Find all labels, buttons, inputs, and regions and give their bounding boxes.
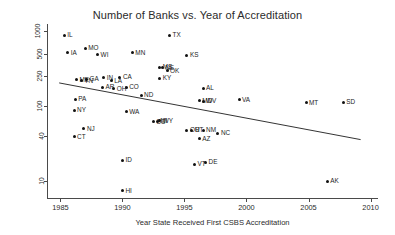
x-axis-tick-mark [246,198,247,202]
x-axis-label: Year State Received First CSBS Accredita… [47,218,378,227]
data-point-label: CT [77,134,86,140]
x-axis-tick-mark [309,198,310,202]
data-point-label: IL [67,32,72,38]
data-point-label: KS [190,52,199,58]
data-point-label: WY [163,118,173,124]
data-point-label: PA [78,96,86,102]
data-point-label: WV [206,98,216,104]
data-point [204,161,207,164]
data-point [202,100,205,103]
x-axis-tick-label: 2000 [238,203,254,212]
x-axis-tick-mark [371,198,372,202]
data-point-label: MT [309,99,318,105]
y-axis-tick-label: 10 [39,178,46,185]
data-point-label: NM [206,127,216,133]
data-point [140,94,143,97]
data-point [168,34,171,37]
data-point [84,47,87,50]
y-axis-tick-mark [44,76,48,77]
data-point [125,110,128,113]
data-point [193,163,196,166]
data-point [85,78,88,81]
data-point [305,101,308,104]
data-point-label: NY [77,107,86,113]
data-point-label: NC [221,130,230,136]
data-point-label: MN [135,49,145,55]
data-point [74,98,77,101]
data-point-label: CA [123,74,132,80]
data-point-label: VA [242,97,250,103]
y-axis-tick-label: 250 [37,71,44,82]
data-point-label: AL [206,85,214,91]
data-point-label: KY [163,75,172,81]
y-axis-tick-label: 100 [37,101,44,112]
x-axis-tick-mark [60,198,61,202]
data-point-label: TX [173,32,181,38]
chart-screenshot: Number of Banks vs. Year of Accreditatio… [0,0,395,235]
data-point [202,87,205,90]
y-axis-tick-mark [44,54,48,55]
data-point [63,34,66,37]
x-axis-tick-label: 1990 [114,203,130,212]
data-point [73,109,76,112]
data-point [238,98,241,101]
data-point-label: AK [330,178,339,184]
data-point-label: WI [101,51,109,57]
y-axis-tick-label: 40 [39,133,46,140]
y-axis-tick-label: 500 [37,48,44,59]
data-point [202,129,205,132]
x-axis-tick-label: 1995 [176,203,192,212]
data-point-label: AZ [202,136,210,142]
y-axis-tick-mark [44,106,48,107]
chart-title: Number of Banks vs. Year of Accreditatio… [0,9,395,21]
x-axis-tick-mark [184,198,185,202]
data-point-label: ID [125,157,131,163]
data-point-label: CO [129,84,139,90]
y-axis-tick-mark [44,31,48,32]
data-point-label: MO [88,45,98,51]
x-axis-tick-label: 2010 [362,203,378,212]
data-point-label: NJ [87,126,95,132]
data-point-label: HI [125,188,131,194]
data-point-label: GA [89,76,98,82]
data-point-label: OK [170,67,179,73]
data-point [125,86,128,89]
data-point-label: IA [71,49,77,55]
x-axis-tick-label: 2005 [300,203,316,212]
x-axis-tick-mark [122,198,123,202]
data-point [101,86,104,89]
data-point [121,159,124,162]
plot-inner: ILIAMOWIMNTXKSMSNEOKINCAKYMETNGALAAROHCO… [48,24,378,198]
plot-area: ILIAMOWIMNTXKSMSNEOKINCAKYMETNGALAAROHCO… [47,24,378,199]
data-point-label: ND [144,92,153,98]
data-point-label: DE [209,159,218,165]
x-axis-tick-label: 1985 [52,203,68,212]
data-point [342,101,345,104]
data-point [166,69,169,72]
data-point [326,180,329,183]
data-point-label: LA [114,78,122,84]
data-point-label: SD [346,99,355,105]
data-point [131,51,134,54]
data-point-label: WA [129,108,139,114]
y-axis-tick-label: 1000 [35,24,42,39]
